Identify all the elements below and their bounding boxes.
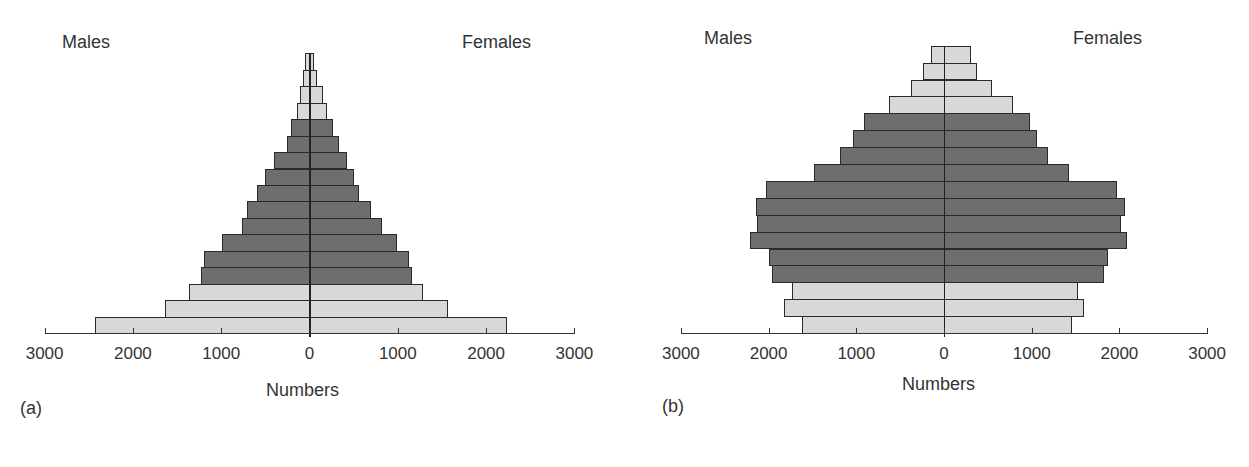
- bar-females: [944, 249, 1108, 267]
- bar-females: [944, 232, 1127, 250]
- x-tick-label: 1000: [1013, 344, 1051, 364]
- bar-males: [840, 147, 945, 165]
- bar-females: [944, 282, 1078, 300]
- bar-females: [944, 198, 1125, 216]
- pyramid-panel-b: Males Females 3000200010000100020003000 …: [0, 0, 1249, 467]
- bar-males: [766, 181, 945, 199]
- bar-males: [889, 96, 945, 114]
- bar-females: [944, 113, 1030, 131]
- bar-females: [944, 316, 1072, 334]
- bar-males: [911, 80, 945, 98]
- x-tick-label: 2000: [1100, 344, 1138, 364]
- bar-males: [814, 164, 945, 182]
- x-tick-label: 0: [939, 344, 948, 364]
- bar-males: [923, 63, 945, 81]
- bar-males: [792, 282, 945, 300]
- bar-males: [756, 198, 945, 216]
- bar-males: [802, 316, 945, 334]
- x-tick: [769, 328, 770, 334]
- x-tick: [944, 328, 945, 334]
- bar-males: [784, 299, 945, 317]
- bar-males: [750, 232, 945, 250]
- x-tick-label: 3000: [662, 344, 700, 364]
- bar-males: [769, 249, 945, 267]
- bar-females: [944, 147, 1048, 165]
- bar-females: [944, 299, 1084, 317]
- x-tick: [856, 328, 857, 334]
- bar-males: [757, 215, 945, 233]
- x-tick: [1119, 328, 1120, 334]
- bar-females: [944, 96, 1013, 114]
- females-label: Females: [1073, 28, 1142, 49]
- bar-females: [944, 130, 1037, 148]
- x-tick: [681, 328, 682, 334]
- males-label: Males: [704, 28, 752, 49]
- center-line: [944, 46, 946, 337]
- bar-females: [944, 63, 977, 81]
- panel-label: (b): [662, 396, 684, 417]
- x-tick-label: 1000: [837, 344, 875, 364]
- x-tick-label: 2000: [750, 344, 788, 364]
- bar-females: [944, 80, 992, 98]
- bar-females: [944, 164, 1069, 182]
- bar-males: [853, 130, 945, 148]
- bar-males: [772, 265, 945, 283]
- x-tick-label: 3000: [1188, 344, 1226, 364]
- bar-females: [944, 265, 1104, 283]
- x-tick: [1032, 328, 1033, 334]
- bar-females: [944, 46, 971, 64]
- bar-males: [864, 113, 945, 131]
- x-axis-title: Numbers: [902, 374, 975, 395]
- bar-females: [944, 215, 1121, 233]
- bar-females: [944, 181, 1117, 199]
- x-tick: [1207, 328, 1208, 334]
